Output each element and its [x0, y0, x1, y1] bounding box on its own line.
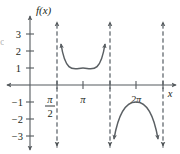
curve-branch-lower — [114, 102, 158, 139]
curve-upper-right-arm — [83, 44, 105, 69]
curve-lower-right-arm — [136, 102, 158, 139]
x-axis-label: x — [167, 88, 173, 99]
x-label-pi-over-2-denominator: 2 — [47, 108, 52, 119]
curve-upper-left-arm — [61, 44, 83, 69]
curve-lower-left-arm — [114, 102, 136, 139]
figure-container: c — [0, 0, 180, 154]
y-label-neg2: −2 — [12, 114, 23, 125]
y-label-1: 1 — [16, 63, 21, 74]
y-label-neg1: −1 — [12, 97, 23, 108]
y-label-2: 2 — [16, 46, 21, 57]
y-label-3: 3 — [16, 29, 21, 40]
curve-branch-upper — [61, 44, 105, 69]
x-tick-labels: π 2 π 2π — [45, 94, 142, 119]
y-label-neg3: −3 — [12, 131, 23, 142]
axes-group — [7, 16, 176, 150]
y-axis-label: f(x) — [36, 4, 52, 17]
x-label-pi: π — [80, 94, 86, 105]
x-label-pi-over-2: π 2 — [45, 94, 55, 119]
x-label-pi-over-2-numerator: π — [47, 94, 53, 105]
graph-canvas: 3 2 1 −1 −2 −3 π 2 π 2π f(x) x — [0, 0, 180, 154]
